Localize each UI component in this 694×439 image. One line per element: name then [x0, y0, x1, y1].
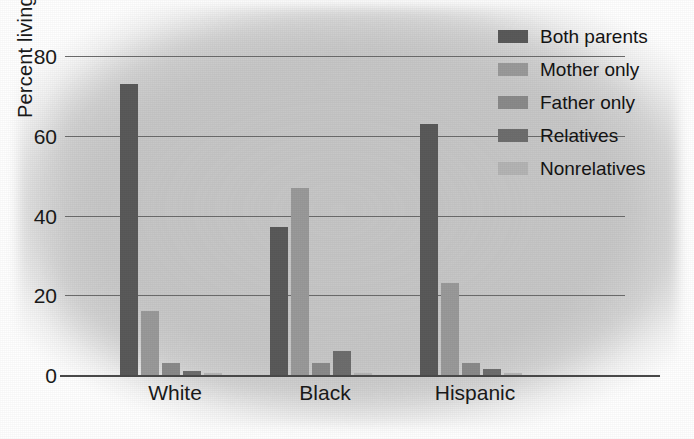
- bar: [462, 363, 480, 375]
- x-axis-category-label: Hispanic: [420, 381, 530, 405]
- legend-item: Both parents: [498, 22, 688, 51]
- x-axis-line: [60, 375, 660, 377]
- x-axis-category-label: Black: [270, 381, 380, 405]
- bar: [441, 283, 459, 375]
- bar-group: Black: [270, 56, 380, 375]
- legend-item: Nonrelatives: [498, 154, 688, 183]
- bar: [483, 369, 501, 375]
- bar: [141, 311, 159, 375]
- bar: [204, 373, 222, 375]
- bar: [312, 363, 330, 375]
- legend-swatch: [498, 162, 528, 175]
- y-axis-tick-label: 80: [34, 46, 57, 67]
- chart-figure: Percent living with 020406080 WhiteBlack…: [0, 0, 694, 439]
- bar: [270, 227, 288, 375]
- bar-group: White: [120, 56, 230, 375]
- y-axis-tick-label: 40: [34, 205, 57, 226]
- y-axis-tick-label: 60: [34, 125, 57, 146]
- bar: [120, 84, 138, 375]
- legend-label: Nonrelatives: [540, 159, 646, 178]
- y-axis-tick-label: 20: [34, 285, 57, 306]
- legend-swatch: [498, 30, 528, 43]
- bar: [291, 188, 309, 375]
- bar: [420, 124, 438, 375]
- bar: [354, 373, 372, 375]
- legend-item: Relatives: [498, 121, 688, 150]
- legend-swatch: [498, 96, 528, 109]
- bar: [183, 371, 201, 375]
- legend-label: Both parents: [540, 27, 648, 46]
- legend-label: Father only: [540, 93, 635, 112]
- legend: Both parentsMother onlyFather onlyRelati…: [498, 22, 688, 187]
- x-axis-category-label: White: [120, 381, 230, 405]
- bar: [333, 351, 351, 375]
- legend-swatch: [498, 63, 528, 76]
- legend-item: Mother only: [498, 55, 688, 84]
- bar: [504, 373, 522, 375]
- legend-item: Father only: [498, 88, 688, 117]
- legend-label: Relatives: [540, 126, 618, 145]
- y-axis-tick-label: 0: [45, 365, 57, 386]
- bar: [162, 363, 180, 375]
- legend-label: Mother only: [540, 60, 639, 79]
- legend-swatch: [498, 129, 528, 142]
